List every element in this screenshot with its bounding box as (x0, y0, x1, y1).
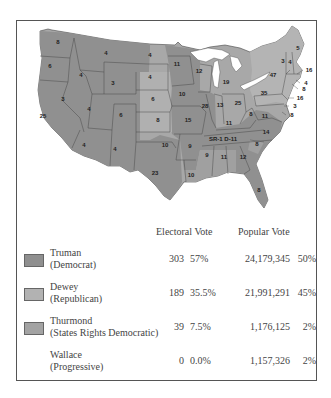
table-row-dewey: Dewey (Republican) 189 35.5% 21,991,291 … (16, 280, 317, 310)
electoral-pct: 57% (184, 253, 218, 264)
state-label-nj: 16 (297, 95, 304, 101)
region-plains-dewey (140, 72, 172, 132)
popular-pct: 2% (292, 355, 316, 366)
candidate-party: (Republican) (50, 293, 102, 305)
state-label-al: 11 (221, 154, 228, 160)
state-label-oh: 25 (235, 100, 242, 106)
state-label-il: 28 (202, 103, 209, 109)
header-electoral-vote: Electoral Vote (156, 226, 213, 237)
electoral-votes: 39 (162, 321, 184, 332)
table-row-truman: Truman (Democrat) 303 57% 24,179,345 50% (16, 246, 317, 276)
state-label-ny: 47 (270, 72, 277, 78)
popular-votes: 1,176,125 (226, 321, 290, 332)
state-label-pa: 35 (261, 90, 268, 96)
state-label-ia: 10 (179, 91, 186, 97)
state-label-mo: 15 (185, 117, 192, 123)
popular-pct: 2% (292, 321, 316, 332)
table-row-thurmond: Thurmond (States Rights Democratic) 39 7… (16, 314, 317, 344)
candidate-truman: Truman (Democrat) (50, 247, 96, 271)
state-label-ky: 11 (226, 120, 233, 126)
popular-pct: 45% (292, 287, 316, 298)
candidate-name: Dewey (50, 281, 102, 293)
state-label-ga: 12 (240, 154, 247, 160)
state-label-ct: 8 (302, 86, 306, 92)
legend-swatch-dewey (24, 288, 44, 301)
legend-swatch-truman (24, 254, 44, 267)
candidate-wallace: Wallace (Progressive) (50, 349, 103, 373)
candidate-name: Truman (50, 247, 96, 259)
candidate-thurmond: Thurmond (States Rights Democratic) (50, 315, 158, 339)
electoral-pct: 35.5% (184, 287, 224, 298)
electoral-votes: 303 (162, 253, 184, 264)
popular-votes: 24,179,345 (226, 253, 290, 264)
popular-votes: 21,991,291 (226, 287, 290, 298)
candidate-party: (States Rights Democratic) (50, 327, 158, 339)
state-label-de: 3 (293, 103, 297, 109)
region-northeast-dewey (250, 26, 304, 106)
us-electoral-map: 8625344346444468102311101591012281913251… (0, 0, 331, 215)
state-label-md: 8 (290, 112, 294, 118)
popular-pct: 50% (292, 253, 316, 264)
state-label-mn: 11 (174, 61, 181, 67)
state-label-tx: 23 (152, 170, 159, 176)
header-popular-vote: Popular Vote (238, 226, 290, 237)
popular-votes: 1,157,326 (226, 355, 290, 366)
candidate-name: Thurmond (50, 315, 158, 327)
state-label-va: 11 (262, 113, 269, 119)
candidate-dewey: Dewey (Republican) (50, 281, 102, 305)
state-label-ok: 10 (162, 142, 169, 148)
electoral-pct: 0.0% (184, 355, 224, 366)
electoral-votes: 189 (162, 287, 184, 298)
map-svg: 8625344346444468102311101591012281913251… (0, 0, 331, 215)
electoral-pct: 7.5% (184, 321, 224, 332)
state-label-in: 13 (217, 102, 224, 108)
state-label-la: 10 (188, 172, 195, 178)
state-label-tn: SR-1 D-11 (209, 136, 238, 142)
state-label-ma: 16 (306, 67, 313, 73)
state-label-wi: 12 (196, 68, 203, 74)
table-row-wallace: Wallace (Progressive) 0 0.0% 1,157,326 2… (16, 348, 317, 378)
electoral-votes: 0 (162, 355, 184, 366)
candidate-name: Wallace (50, 349, 103, 361)
candidate-party: (Democrat) (50, 259, 96, 271)
state-label-ca: 25 (40, 113, 47, 119)
legend-swatch-thurmond (24, 322, 44, 335)
state-label-nc: 14 (263, 129, 270, 135)
candidate-party: (Progressive) (50, 361, 103, 373)
state-label-mi: 19 (223, 79, 230, 85)
